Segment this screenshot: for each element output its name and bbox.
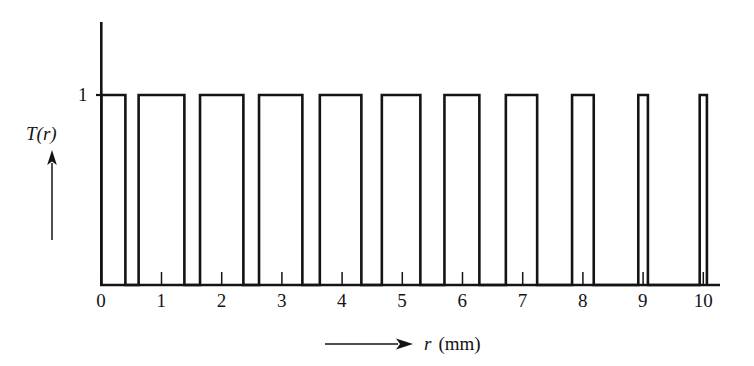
x-tick-label: 7: [518, 291, 528, 310]
x-tick-label: 1: [157, 291, 167, 310]
waveform-path: [101, 95, 707, 285]
x-axis-label-unit: (mm): [438, 333, 480, 354]
y-tick-label-1: 1: [78, 85, 88, 104]
y-axis-direction-arrow: [47, 150, 57, 240]
x-tick-label: 6: [458, 291, 468, 310]
x-axis-label: r(mm): [424, 334, 481, 353]
x-tick-label: 2: [217, 291, 227, 310]
x-tick-label: 3: [277, 291, 287, 310]
x-tick-label: 0: [96, 291, 106, 310]
x-tick-label: 8: [578, 291, 588, 310]
x-axis-direction-arrow: [325, 339, 413, 350]
x-tick-label: 5: [397, 291, 407, 310]
plot-canvas: [0, 0, 754, 366]
x-tick-label: 4: [337, 291, 347, 310]
x-axis-ticks: [101, 272, 703, 285]
transmission-waveform: [101, 95, 707, 285]
x-axis-label-variable: r: [424, 333, 431, 354]
y-axis-label: T(r): [26, 124, 57, 143]
x-tick-label: 9: [638, 291, 648, 310]
figure-container: 1 T(r) r(mm) 012345678910: [0, 0, 754, 366]
x-tick-label: 10: [694, 291, 713, 310]
